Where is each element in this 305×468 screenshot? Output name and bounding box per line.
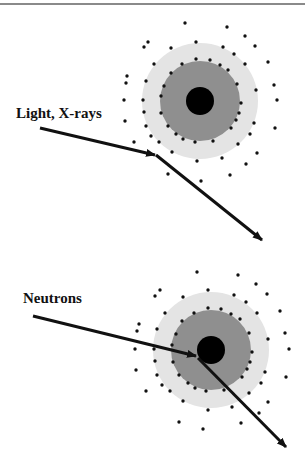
scattering-diagram — [0, 0, 305, 468]
atom-top — [122, 21, 278, 182]
incoming-xray-arrow — [40, 128, 155, 155]
atom-bottom — [133, 270, 290, 430]
label-light-xrays: Light, X-rays — [16, 105, 102, 122]
label-neutrons: Neutrons — [23, 290, 82, 307]
nucleus — [186, 87, 214, 115]
scattered-xray-arrow — [156, 155, 262, 240]
